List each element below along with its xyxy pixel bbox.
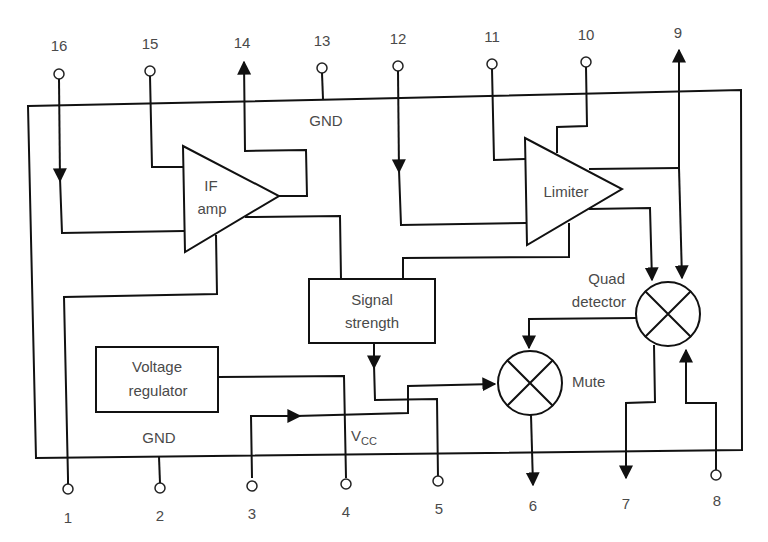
voltage-regulator-label-line2: regulator [128,382,187,399]
voltage-regulator-block: Voltage regulator [96,347,218,412]
pin-10: 10 [557,26,594,153]
signal-strength-label-line1: Signal [351,291,393,308]
gnd-top-label: GND [309,112,343,129]
pin-1: 1 [63,478,73,526]
pin-16: 16 [51,37,184,233]
pin-11-label: 11 [484,28,500,45]
pin-10-label: 10 [578,26,595,43]
limiter-label: Limiter [543,183,588,200]
pin-9-label: 9 [674,24,682,41]
pin-4: 4 [341,479,351,520]
quad-detector-label-line2: detector [572,293,626,310]
pin-15-label: 15 [142,35,159,52]
pin-6-label: 6 [529,497,537,514]
pin-7-label: 7 [622,495,630,512]
pin-12-label: 12 [390,30,407,47]
pin-13-label: 13 [314,32,331,49]
limiter-block: Limiter [525,138,622,245]
pin-5: 5 [433,476,443,517]
pin-2: 2 [155,457,165,524]
pin-7: 7 [622,495,630,512]
vcc-label: VCC [351,427,377,447]
if-amp-label-line1: IF [204,177,217,194]
pin-16-label: 16 [51,37,68,54]
pin-3-label: 3 [248,505,256,522]
pin-13: 13 [314,32,331,99]
pin-5-label: 5 [435,500,443,517]
if-amp-block: IF amp [183,146,279,252]
pin-15: 15 [142,35,183,167]
pin-14-label: 14 [234,34,251,51]
pin-2-label: 2 [156,507,164,524]
pin-4-label: 4 [342,503,350,520]
signal-strength-block: Signal strength [309,279,435,343]
voltage-regulator-label-line1: Voltage [132,358,182,375]
pin-11: 11 [484,28,525,160]
quad-detector-block: Quad detector [572,270,700,346]
pin-6: 6 [529,497,537,514]
pin-9: 9 [589,24,682,278]
ic-block-diagram: 16 15 14 13 GND 12 11 10 9 [0,0,768,542]
mute-block: Mute [498,351,605,415]
pin-3: 3 [247,481,257,522]
gnd-bottom-label: GND [142,429,176,446]
signal-strength-label-line2: strength [345,314,399,331]
pin-14: 14 [234,34,307,196]
if-amp-label-line2: amp [197,200,226,217]
pin-8-label: 8 [713,492,721,509]
pin-8: 8 [711,470,721,509]
pin-12: 12 [390,30,526,225]
mute-label: Mute [572,373,605,390]
pin-1-label: 1 [64,509,72,526]
quad-detector-label-line1: Quad [588,270,625,287]
